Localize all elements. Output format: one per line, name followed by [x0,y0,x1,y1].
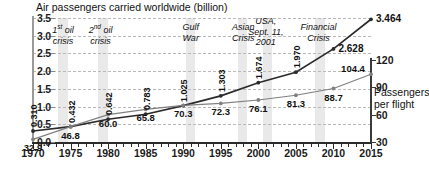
label-passengers-1985: 0.783 [142,88,152,111]
series-line-per-flight [33,74,371,139]
label-passengers-2000: 1.674 [254,56,264,79]
label-per-flight-1985: 65.8 [136,112,155,123]
data-point [219,102,223,106]
label-per-flight-1990: 70.3 [174,108,193,119]
label-passengers-1990: 1.025 [179,79,189,102]
label-passengers-2015: 3.464 [376,13,401,24]
data-point [294,93,298,97]
label-passengers-1975: 0.432 [67,100,77,123]
label-passengers-2005: 1.970 [292,46,302,69]
data-point [294,70,298,74]
label-per-flight-1975: 46.8 [61,130,80,141]
label-per-flight-2000: 76.1 [249,103,268,114]
data-point [332,47,336,51]
label-passengers-1970: 0.310 [29,104,39,127]
label-passengers-2010: 2.628 [338,43,363,54]
label-per-flight-1995: 72.3 [212,106,231,117]
label-passengers-1980: 0.642 [104,93,114,116]
label-passengers-1995: 1.303 [217,69,227,92]
label-per-flight-2010: 88.7 [324,92,343,103]
data-point [369,17,373,21]
data-point [69,125,73,129]
data-point [256,98,260,102]
data-point [256,81,260,85]
label-per-flight-1970: 32.9 [24,142,43,153]
data-point [181,103,185,107]
label-per-flight-1980: 60.0 [99,118,118,129]
label-per-flight-2015: 104.4 [341,63,365,74]
label-per-flight-2005: 81.3 [287,98,306,109]
series-line-passengers [33,19,371,131]
data-point [369,72,373,76]
data-point [31,137,35,141]
data-point [332,87,336,91]
data-point [219,94,223,98]
data-point [31,129,35,133]
